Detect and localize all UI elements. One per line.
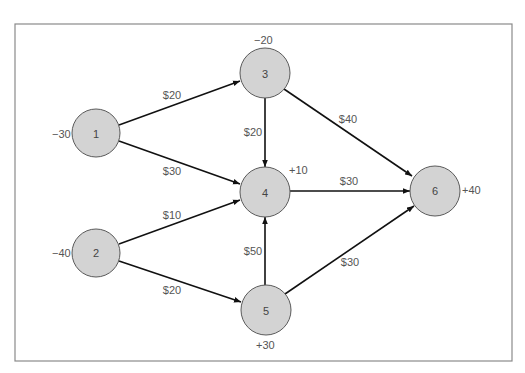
- node-label: 6: [432, 185, 438, 197]
- node-5: 5: [241, 285, 291, 335]
- node-6-supply: +40: [462, 184, 481, 196]
- edge-cost-label: $20: [163, 89, 181, 101]
- network-diagram: $20 $30 $10 $20 $20 $40 $30 $50 $30 1 −3…: [0, 0, 525, 373]
- node-6: 6: [410, 166, 460, 216]
- node-label: 3: [262, 68, 268, 80]
- node-4: 4: [240, 167, 290, 217]
- edge-cost-label: $20: [244, 126, 262, 138]
- node-3-supply: −20: [254, 34, 273, 46]
- edge-cost-label: $30: [340, 175, 358, 187]
- node-label: 1: [93, 128, 99, 140]
- node-1-supply: −30: [52, 128, 71, 140]
- node-2: 2: [72, 229, 120, 277]
- node-2-supply: −40: [52, 247, 71, 259]
- edge-cost-label: $10: [163, 209, 181, 221]
- node-5-supply: +30: [256, 339, 275, 351]
- edge-cost-label: $40: [339, 113, 357, 125]
- node-1: 1: [72, 109, 120, 157]
- node-3: 3: [240, 48, 290, 98]
- edge-cost-label: $30: [341, 256, 359, 268]
- edge-cost-label: $30: [163, 165, 181, 177]
- edge-cost-label: $20: [163, 284, 181, 296]
- node-label: 2: [93, 247, 99, 259]
- node-label: 5: [263, 305, 269, 317]
- node-label: 4: [262, 187, 268, 199]
- edge-cost-label: $50: [244, 245, 262, 257]
- node-4-supply: +10: [289, 164, 308, 176]
